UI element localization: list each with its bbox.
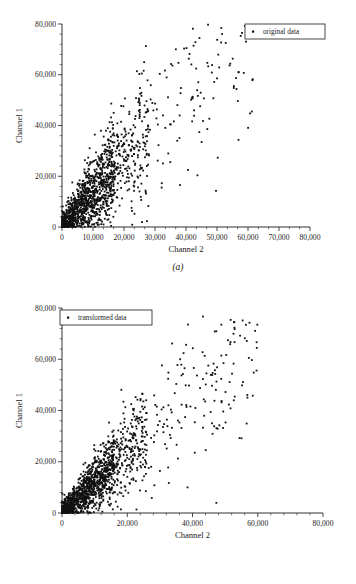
y-tick-label: 80,000 <box>35 20 56 29</box>
y-tick-label: 40,000 <box>35 406 56 415</box>
y-tick-label: 20,000 <box>35 172 56 181</box>
x-tick-label: 0 <box>60 519 64 528</box>
y-tick-label: 80,000 <box>35 304 56 313</box>
x-tick-label: 20,000 <box>114 233 135 242</box>
x-axis-title: Channel 2 <box>175 530 210 540</box>
y-tick-label: 0 <box>52 509 56 518</box>
x-tick-label: 0 <box>60 233 64 242</box>
figure-panel-a: 010,00020,00030,00040,00050,00060,00070,… <box>0 0 356 292</box>
x-tick-label: 60,000 <box>247 519 268 528</box>
y-tick-label: 40,000 <box>35 121 56 130</box>
y-tick-label: 60,000 <box>35 355 56 364</box>
x-axis-title: Channel 2 <box>168 244 203 254</box>
panel-caption-a: (a) <box>0 262 356 272</box>
scatter-plot-b: 020,00040,00060,00080,000020,00040,00060… <box>0 292 356 554</box>
scatter-points <box>61 316 258 514</box>
x-tick-label: 70,000 <box>269 233 290 242</box>
legend-label: transformed data <box>78 314 127 322</box>
legend[interactable]: original data <box>245 24 325 39</box>
legend-label: original data <box>263 28 300 36</box>
x-tick-label: 40,000 <box>176 233 197 242</box>
y-axis-ticks: 020,00040,00060,00080,000 <box>35 20 62 232</box>
legend-marker-icon <box>252 31 254 33</box>
x-tick-label: 40,000 <box>182 519 203 528</box>
x-tick-label: 20,000 <box>117 519 138 528</box>
y-tick-label: 60,000 <box>35 70 56 79</box>
x-tick-label: 80,000 <box>313 519 334 528</box>
legend[interactable]: transformed data <box>60 310 152 325</box>
y-axis-ticks: 020,00040,00060,00080,000 <box>35 304 62 518</box>
x-tick-label: 80,000 <box>300 233 321 242</box>
x-tick-label: 50,000 <box>207 233 228 242</box>
x-axis-ticks: 020,00040,00060,00080,000 <box>60 513 334 528</box>
scatter-plot-a: 010,00020,00030,00040,00050,00060,00070,… <box>0 0 356 262</box>
axes <box>62 24 310 227</box>
x-tick-label: 10,000 <box>83 233 104 242</box>
legend-marker-icon <box>67 317 69 319</box>
x-axis-ticks: 010,00020,00030,00040,00050,00060,00070,… <box>60 227 321 242</box>
scatter-points <box>61 24 254 228</box>
x-tick-label: 60,000 <box>238 233 259 242</box>
figure-panel-b: 020,00040,00060,00080,000020,00040,00060… <box>0 292 356 584</box>
y-axis-title: Channel 1 <box>14 393 24 428</box>
y-tick-label: 0 <box>52 223 56 232</box>
y-axis-title: Channel 1 <box>14 108 24 143</box>
y-tick-label: 20,000 <box>35 457 56 466</box>
x-tick-label: 30,000 <box>145 233 166 242</box>
